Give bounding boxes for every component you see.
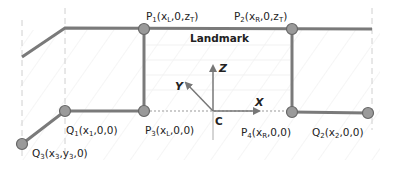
node-q2 xyxy=(363,108,374,119)
node-p3 xyxy=(139,106,150,117)
ground-line-right xyxy=(292,112,368,113)
landmark-label: Landmark xyxy=(190,32,250,44)
x-axis-label: X xyxy=(254,96,264,109)
node-p1 xyxy=(139,24,150,35)
origin-label: C xyxy=(215,115,223,127)
y-axis-label: Y xyxy=(175,80,184,93)
z-axis-label: Z xyxy=(218,62,228,75)
node-q1 xyxy=(60,106,71,117)
node-p4 xyxy=(287,107,298,118)
landmark-coordinate-diagram: Z X Y C Landmark P1(xL,0,zT) P2(xR,0,zT)… xyxy=(0,0,393,170)
ground-plane-hatching xyxy=(20,30,380,160)
label-p1: P1(xL,0,zT) xyxy=(146,10,198,24)
node-p2 xyxy=(287,24,298,35)
label-p2: P2(xR,0,zT) xyxy=(234,10,287,24)
node-q3 xyxy=(17,139,28,150)
